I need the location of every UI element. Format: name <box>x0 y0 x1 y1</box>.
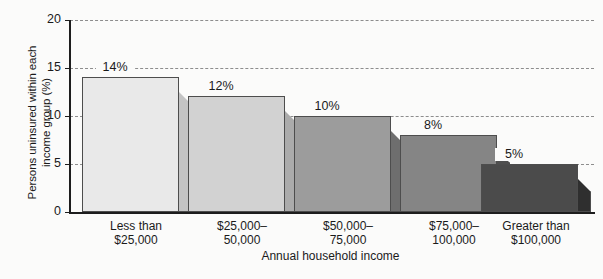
bar-value-label-1: 14% <box>96 61 134 74</box>
bar-side-face <box>577 178 591 212</box>
y-tickmark-15 <box>65 68 69 69</box>
y-tickmark-0 <box>65 212 69 213</box>
bar-front-face <box>188 96 285 212</box>
bar-50000-75000 <box>294 116 404 212</box>
bar-less-than-25000 <box>82 77 192 212</box>
y-axis-title: Persons uninsured within each income gro… <box>26 23 53 223</box>
bar-value-label-2: 12% <box>202 80 240 93</box>
bar-value-label-3: 10% <box>308 100 346 113</box>
y-tick-label-15: 15 <box>35 61 61 74</box>
bar-value-label-4: 8% <box>414 119 452 132</box>
gridline-15 <box>70 68 594 69</box>
x-axis-title: Annual household income <box>0 249 603 263</box>
bar-value-label-5: 5% <box>495 148 533 161</box>
x-category-label-3: $50,000– 75,000 <box>288 219 408 247</box>
x-category-label-5: Greater than $100,000 <box>476 219 596 247</box>
y-tick-label-10: 10 <box>35 109 61 122</box>
bar-front-face <box>294 116 391 212</box>
y-tickmark-20 <box>65 20 69 21</box>
y-tick-label-5: 5 <box>35 157 61 170</box>
y-tick-label-0: 0 <box>35 205 61 218</box>
x-category-label-1: Less than $25,000 <box>76 219 196 247</box>
bar-greater-than-100000 <box>481 164 591 212</box>
bar-front-face <box>481 164 578 212</box>
bar-front-face <box>82 77 179 212</box>
x-category-label-2: $25,000– 50,000 <box>182 219 302 247</box>
y-tick-label-20: 20 <box>35 13 61 26</box>
bar-25000-50000 <box>188 96 298 212</box>
gridline-20 <box>70 20 594 21</box>
bar-chart-figure: Persons uninsured within each income gro… <box>0 0 603 279</box>
y-tickmark-5 <box>65 164 69 165</box>
y-axis-line <box>69 20 71 213</box>
y-tickmark-10 <box>65 116 69 117</box>
